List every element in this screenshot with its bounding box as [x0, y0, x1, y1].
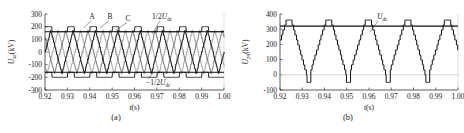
y-tick-label: 200 — [266, 40, 277, 49]
chart-a-canvas: 3002001000-100-200-3000.920.930.940.950.… — [0, 0, 232, 112]
y-tick-label: 100 — [266, 55, 277, 64]
upper-envelope-pulse-train — [45, 27, 224, 32]
x-tick-label: 0.96 — [363, 92, 376, 101]
panel-a-caption: (a) — [0, 112, 232, 122]
y-tick-label: 400 — [266, 10, 277, 19]
x-tick-label: 0.97 — [385, 92, 398, 101]
panel-b-caption: (b) — [232, 112, 464, 122]
x-tick-label: 0.98 — [173, 92, 186, 101]
x-tick-label: 0.95 — [340, 92, 353, 101]
phase-a-label: A — [89, 12, 95, 21]
x-tick-label: 0.96 — [128, 92, 141, 101]
leader-line — [100, 21, 109, 29]
x-tick-label: 0.98 — [407, 92, 420, 101]
x-tick-label: 0.97 — [150, 92, 163, 101]
figure-container: 3002001000-100-200-3000.920.930.940.950.… — [0, 0, 464, 133]
half-udc-pos-text: 1/2Udc — [152, 12, 173, 22]
x-tick-label: 0.99 — [195, 92, 208, 101]
x-tick-label: 0.95 — [106, 92, 119, 101]
y-axis-label: Upn(kV) — [241, 39, 251, 64]
y-tick-label: 0 — [273, 70, 277, 79]
y-tick-label: -100 — [28, 60, 42, 69]
chart-panel-b: 4003002001000-1000.920.930.940.950.960.9… — [232, 0, 464, 133]
chart-panel-a: 3002001000-100-200-3000.920.930.940.950.… — [0, 0, 232, 133]
x-tick-label: 0.94 — [318, 92, 331, 101]
y-tick-label: 300 — [266, 25, 277, 34]
phase-c-label: C — [125, 14, 130, 23]
x-tick-label: 0.94 — [83, 92, 96, 101]
y-axis-label: Uac(kV) — [7, 39, 17, 64]
half-udc-neg-label: −1/2Udc — [146, 72, 171, 88]
chart-b-canvas: 4003002001000-1000.920.930.940.950.960.9… — [232, 0, 464, 112]
y-tick-label: 200 — [31, 22, 42, 31]
x-tick-label: 0.92 — [274, 92, 287, 101]
phase-b-label: B — [107, 12, 112, 21]
x-axis-label: t(s) — [129, 103, 140, 112]
x-tick-label: 1.00 — [452, 92, 464, 101]
y-tick-label: -200 — [28, 73, 42, 82]
half-udc-neg-text: −1/2Udc — [146, 78, 171, 88]
x-tick-label: 0.93 — [296, 92, 309, 101]
udc-label-text: Udc — [377, 12, 388, 22]
y-tick-label: 300 — [31, 10, 42, 19]
y-tick-label: 100 — [31, 35, 42, 44]
x-tick-label: 0.92 — [39, 92, 52, 101]
y-tick-label: 0 — [38, 48, 42, 57]
upn-waveform — [280, 20, 458, 82]
x-axis-label: t(s) — [364, 103, 375, 112]
x-tick-label: 0.99 — [429, 92, 442, 101]
x-tick-label: 0.93 — [61, 92, 74, 101]
x-tick-label: 1.00 — [218, 92, 231, 101]
